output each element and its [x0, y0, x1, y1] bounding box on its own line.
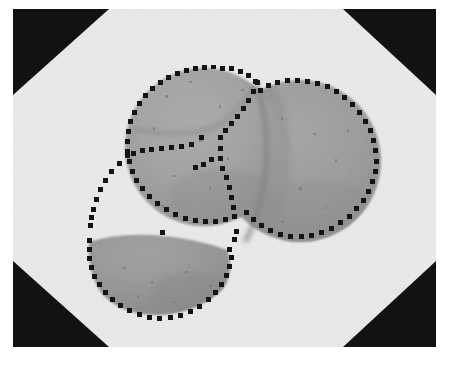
scan-image-frame: [13, 9, 436, 347]
figure-caption: [14, 351, 434, 367]
figure-root: [0, 0, 449, 369]
scan-canvas: [13, 9, 436, 347]
